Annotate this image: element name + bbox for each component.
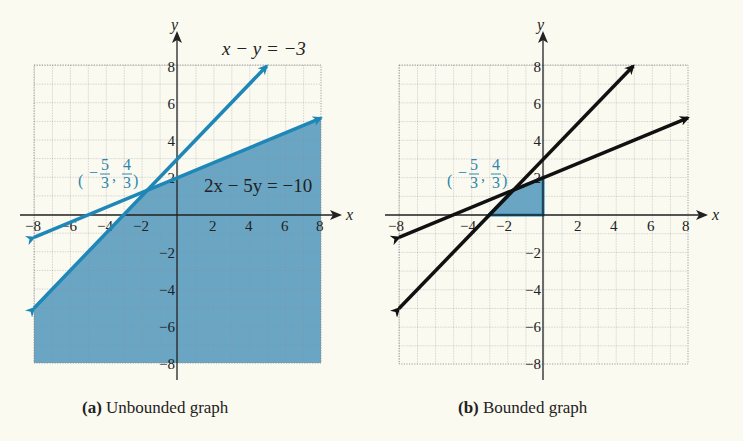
panel-a-unbounded-graph: x y −8 −6 −4 −2 2 4 6 8 8 6 4 2 −2 −4 −6…: [20, 16, 353, 380]
svg-text:(: (: [447, 172, 452, 190]
svg-text:−8: −8: [25, 218, 41, 234]
svg-text:−4: −4: [159, 282, 175, 298]
svg-text:,: ,: [481, 167, 485, 184]
svg-text:−8: −8: [525, 356, 541, 372]
svg-text:4: 4: [492, 156, 500, 173]
svg-text:): ): [133, 172, 138, 190]
figure: x y −8 −6 −4 −2 2 4 6 8 8 6 4 2 −2 −4 −6…: [0, 0, 743, 441]
svg-text:3: 3: [470, 174, 478, 191]
svg-text:−: −: [458, 164, 467, 181]
svg-text:(: (: [78, 172, 83, 190]
svg-text:5: 5: [101, 156, 109, 173]
svg-text:6: 6: [281, 218, 289, 234]
svg-text:3: 3: [123, 174, 131, 191]
svg-text:3: 3: [101, 174, 109, 191]
svg-text:4: 4: [123, 156, 131, 173]
svg-text:8: 8: [316, 218, 324, 234]
svg-text:3: 3: [492, 174, 500, 191]
y-axis-label-b: y: [535, 16, 545, 34]
svg-text:−6: −6: [525, 319, 541, 335]
svg-text:2: 2: [574, 218, 582, 234]
caption-b: (b) Bounded graph: [458, 398, 587, 418]
svg-text:6: 6: [534, 96, 542, 112]
svg-text:−8: −8: [388, 218, 404, 234]
svg-text:8: 8: [534, 59, 542, 75]
svg-text:,: ,: [112, 167, 116, 184]
svg-text:−4: −4: [525, 282, 541, 298]
svg-text:6: 6: [168, 96, 176, 112]
svg-text:−2: −2: [496, 218, 512, 234]
svg-text:2: 2: [209, 218, 217, 234]
svg-text:−2: −2: [159, 245, 175, 261]
svg-text:6: 6: [647, 218, 655, 234]
panel-b-bounded-graph: x y −8 −4 −2 2 4 6 8 8 6 4 2 −2 −4 −6 −8…: [385, 16, 719, 380]
svg-text:8: 8: [682, 218, 690, 234]
svg-text:5: 5: [470, 156, 478, 173]
x-axis-label-a: x: [345, 206, 353, 223]
svg-text:−2: −2: [133, 218, 149, 234]
equation-label-1-a: x − y = −3: [221, 38, 306, 59]
svg-text:4: 4: [610, 218, 618, 234]
svg-text:−6: −6: [159, 319, 175, 335]
svg-text:−: −: [89, 164, 98, 181]
equation-label-2-a: 2x − 5y = −10: [204, 175, 312, 196]
svg-text:4: 4: [245, 218, 253, 234]
svg-text:−8: −8: [159, 356, 175, 372]
caption-a: (a) Unbounded graph: [82, 398, 228, 418]
x-axis-label-b: x: [711, 206, 719, 223]
svg-text:): ): [502, 172, 507, 190]
svg-text:8: 8: [168, 59, 176, 75]
svg-text:4: 4: [534, 133, 542, 149]
y-axis-label-a: y: [169, 16, 179, 34]
svg-text:−2: −2: [525, 245, 541, 261]
svg-text:4: 4: [168, 133, 176, 149]
